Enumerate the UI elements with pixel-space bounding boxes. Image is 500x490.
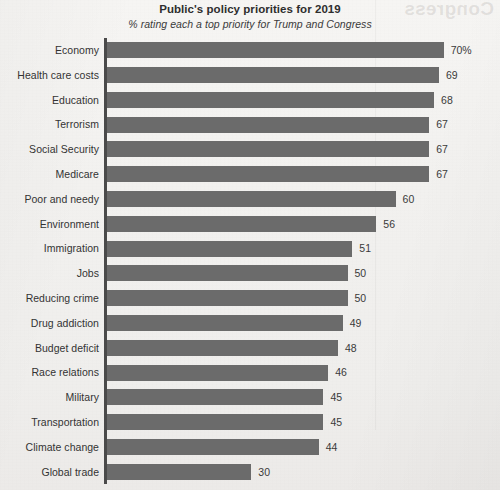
bar-row: Terrorism67 — [0, 112, 500, 137]
bar-row: Reducing crime50 — [0, 286, 500, 311]
bar — [107, 290, 348, 306]
bar-row: Global trade30 — [0, 460, 500, 485]
bar — [107, 166, 429, 182]
bar — [107, 42, 444, 58]
bar-value-label: 68 — [441, 88, 453, 113]
bar-row: Military45 — [0, 385, 500, 410]
bar — [107, 414, 323, 430]
category-label: Reducing crime — [0, 286, 99, 311]
category-label: Environment — [0, 212, 99, 237]
bar-row: Social Security67 — [0, 137, 500, 162]
bar-value-label: 50 — [355, 286, 367, 311]
category-label: Drug addiction — [0, 311, 99, 336]
bar — [107, 191, 396, 207]
category-label: Military — [0, 385, 99, 410]
bar-row: Transportation45 — [0, 410, 500, 435]
bar-value-label: 45 — [330, 410, 342, 435]
bar-value-label: 50 — [355, 261, 367, 286]
bar-chart: Economy70%Health care costs69Education68… — [0, 38, 500, 490]
category-label: Economy — [0, 38, 99, 63]
scanned-page: Congress Public's policy priorities for … — [0, 0, 500, 490]
bar — [107, 92, 434, 108]
bar-row: Environment56 — [0, 212, 500, 237]
bar-value-label: 67 — [436, 112, 448, 137]
bar-row: Drug addiction49 — [0, 311, 500, 336]
bar — [107, 464, 251, 480]
bar — [107, 216, 376, 232]
bar-row: Poor and needy60 — [0, 187, 500, 212]
category-label: Climate change — [0, 435, 99, 460]
category-label: Transportation — [0, 410, 99, 435]
category-label: Health care costs — [0, 63, 99, 88]
category-label: Immigration — [0, 236, 99, 261]
bar-value-label: 49 — [350, 311, 362, 336]
bar-value-label: 46 — [335, 360, 347, 385]
bar-row: Immigration51 — [0, 236, 500, 261]
bar — [107, 315, 343, 331]
bar-value-label: 67 — [436, 162, 448, 187]
bar-row: Climate change44 — [0, 435, 500, 460]
bar-row: Budget deficit48 — [0, 336, 500, 361]
bar — [107, 117, 429, 133]
bar — [107, 265, 348, 281]
bar-value-label: 67 — [436, 137, 448, 162]
category-label: Race relations — [0, 360, 99, 385]
category-label: Budget deficit — [0, 336, 99, 361]
bar — [107, 141, 429, 157]
bar-value-label: 48 — [345, 336, 357, 361]
bar — [107, 340, 338, 356]
bar — [107, 389, 323, 405]
category-label: Jobs — [0, 261, 99, 286]
bar-value-label: 70% — [451, 38, 472, 63]
category-label: Poor and needy — [0, 187, 99, 212]
category-label: Social Security — [0, 137, 99, 162]
bar — [107, 241, 352, 257]
bar — [107, 67, 439, 83]
bar-row: Race relations46 — [0, 360, 500, 385]
bar-row: Jobs50 — [0, 261, 500, 286]
bar-row: Economy70% — [0, 38, 500, 63]
chart-subtitle: % rating each a top priority for Trump a… — [0, 15, 500, 30]
bar-value-label: 60 — [403, 187, 415, 212]
category-label: Medicare — [0, 162, 99, 187]
bar — [107, 439, 319, 455]
bar-value-label: 30 — [258, 460, 270, 485]
bar — [107, 365, 328, 381]
bar-row: Education68 — [0, 88, 500, 113]
bar-value-label: 56 — [383, 212, 395, 237]
bar-row: Health care costs69 — [0, 63, 500, 88]
bar-value-label: 69 — [446, 63, 458, 88]
bar-row: Medicare67 — [0, 162, 500, 187]
chart-header: Public's policy priorities for 2019 % ra… — [0, 0, 500, 30]
chart-title: Public's policy priorities for 2019 — [0, 0, 500, 15]
bar-value-label: 51 — [359, 236, 371, 261]
bar-value-label: 44 — [326, 435, 338, 460]
category-label: Education — [0, 88, 99, 113]
category-label: Global trade — [0, 460, 99, 485]
category-label: Terrorism — [0, 112, 99, 137]
bar-value-label: 45 — [330, 385, 342, 410]
